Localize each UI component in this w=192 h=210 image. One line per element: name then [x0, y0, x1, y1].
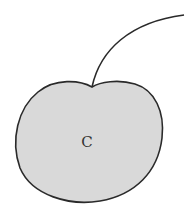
cherry-stem [92, 15, 184, 87]
cherry-label: C [81, 133, 92, 151]
cherry-diagram: C [0, 0, 192, 210]
